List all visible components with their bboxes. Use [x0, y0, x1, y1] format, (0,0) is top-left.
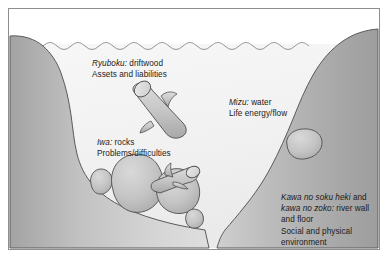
label-mizu-term: Mizu: [229, 98, 249, 107]
label-iwa-gloss: rocks [112, 138, 134, 147]
label-kawa: Kawa no soku heki andkawa no zoko: river… [281, 192, 369, 248]
label-kawa-term: Kawa no soku heki [281, 193, 351, 202]
label-iwa-meaning: Problems/difficulties [97, 149, 171, 158]
figure-stage: Ryuboku: driftwoodAssets and liabilities… [0, 0, 388, 268]
rock-bottom-small [186, 209, 204, 228]
caption-strip [8, 252, 380, 266]
label-kawa-meaning-1: Social and physical [281, 227, 352, 236]
label-mizu-gloss: water [249, 98, 272, 107]
label-ryuboku-term: Ryuboku: [92, 59, 127, 68]
figure-frame: Ryuboku: driftwoodAssets and liabilities… [8, 8, 380, 250]
label-iwa-term: Iwa: [97, 138, 112, 147]
label-kawa-term2: kawa no zoko: [281, 204, 334, 213]
label-ryuboku: Ryuboku: driftwoodAssets and liabilities [92, 58, 167, 80]
label-mizu: Mizu: waterLife energy/flow [229, 97, 287, 119]
rock-small-left [91, 169, 113, 194]
label-kawa-conjunction: and [351, 193, 367, 202]
label-kawa-gloss2: river wall [334, 204, 369, 213]
label-mizu-meaning: Life energy/flow [229, 109, 287, 118]
label-kawa-gloss3: and floor [281, 215, 313, 224]
label-kawa-meaning-2: environment [281, 238, 327, 247]
label-ryuboku-meaning: Assets and liabilities [92, 70, 167, 79]
label-ryuboku-gloss: driftwood [127, 59, 163, 68]
label-iwa: Iwa: rocksProblems/difficulties [97, 137, 171, 159]
